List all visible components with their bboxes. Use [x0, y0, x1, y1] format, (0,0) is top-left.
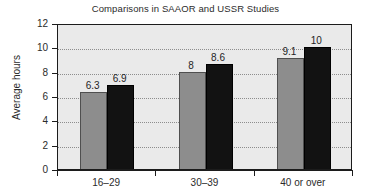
y-tick-label: 12: [18, 19, 48, 29]
bar-value-label: 6.9: [100, 73, 139, 84]
y-tick-label: 8: [18, 68, 48, 78]
x-tick-mark: [254, 170, 255, 176]
bar-value-label: 9.1: [270, 46, 309, 57]
bar-saaor-1: [179, 72, 206, 169]
x-tick-label: 30–39: [155, 177, 255, 188]
x-tick-mark: [155, 170, 156, 176]
y-tick-label: 2: [18, 141, 48, 151]
bar-ussr-1: [206, 64, 233, 169]
x-axis-line: [57, 170, 352, 171]
bar-chart: Comparisons in SAAOR and USSR Studies Av…: [0, 0, 371, 190]
y-tick-label: 4: [18, 116, 48, 126]
chart-title: Comparisons in SAAOR and USSR Studies: [0, 3, 371, 14]
bar-value-label: 8.6: [199, 52, 238, 63]
x-tick-mark: [352, 170, 353, 176]
y-tick-label: 0: [18, 165, 48, 175]
y-tick-label: 10: [18, 43, 48, 53]
x-tick-label: 40 or over: [253, 177, 353, 188]
bar-saaor-0: [80, 92, 107, 169]
x-tick-label: 16–29: [56, 177, 156, 188]
bar-value-label: 10: [297, 35, 336, 46]
bar-ussr-0: [107, 85, 134, 169]
bar-ussr-2: [304, 47, 331, 169]
bar-saaor-2: [277, 58, 304, 169]
y-tick-label: 6: [18, 92, 48, 102]
x-tick-mark: [57, 170, 58, 176]
